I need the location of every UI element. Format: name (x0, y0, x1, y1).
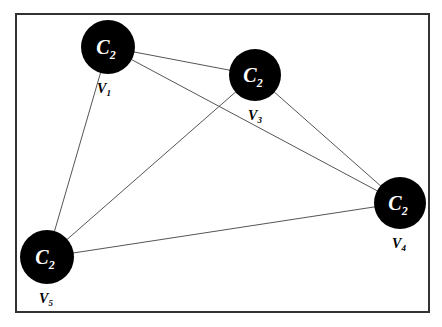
edge-n1-n4 (47, 47, 108, 257)
node-n3: C2V4 (374, 177, 426, 253)
node-label: V1 (97, 81, 111, 98)
node-label-subscript: 5 (48, 298, 53, 308)
frame-border (16, 14, 429, 312)
node-name-subscript: 2 (401, 204, 408, 218)
node-name-subscript: 2 (109, 48, 116, 62)
node-label: V4 (392, 236, 406, 253)
node-n4: C2V5 (20, 230, 74, 308)
node-label: V5 (39, 291, 53, 308)
node-label-subscript: 1 (106, 88, 111, 98)
node-label-subscript: 3 (256, 115, 262, 125)
node-label: V3 (248, 108, 262, 125)
node-n2: C2V3 (229, 49, 281, 125)
edge-n2-n3 (255, 75, 400, 203)
node-name-subscript: 2 (256, 76, 263, 90)
node-n1: C2V1 (81, 20, 135, 98)
node-label-subscript: 4 (400, 243, 406, 253)
node-name-subscript: 2 (48, 258, 55, 272)
graph-diagram: C2V1C2V3C2V4C2V5 (0, 0, 442, 327)
